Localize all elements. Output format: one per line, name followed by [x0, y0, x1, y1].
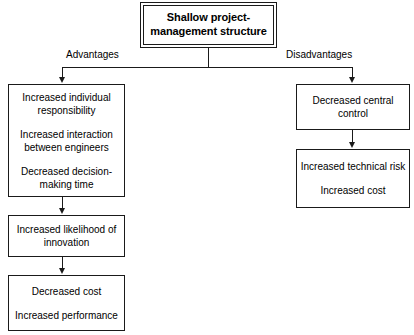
title-line-1: Shallow project- [167, 11, 250, 23]
left-arrowhead-1-to-2 [59, 208, 65, 214]
title-line-2: management structure [150, 25, 267, 37]
node-advantages-group-2: Increased likelihood of innovation [8, 215, 125, 257]
node-text: Increased technical risk [297, 160, 409, 173]
diagram-canvas: Shallow project- management structure Ad… [0, 0, 414, 335]
node-text: Increased cost [297, 184, 409, 197]
node-text: Decreased decision-making time [9, 165, 124, 191]
node-advantages-group-3: Decreased cost Increased performance [8, 275, 125, 331]
node-disadvantages-group-2: Increased technical risk Increased cost [296, 149, 410, 208]
right-arrowhead-1-to-2 [349, 142, 355, 148]
right-branch-arrowhead [349, 77, 355, 83]
branch-distribution-bar [62, 67, 353, 68]
node-text: Increased likelihood of innovation [9, 223, 124, 249]
branch-label-disadvantages: Disadvantages [286, 50, 352, 60]
left-arrowhead-2-to-3 [59, 268, 65, 274]
left-branch-arrowhead [59, 77, 65, 83]
node-text: Increased interaction between engineers [9, 128, 124, 154]
node-disadvantages-group-1: Decreased central control [296, 84, 410, 130]
node-text: Decreased cost [9, 285, 124, 298]
title-box: Shallow project- management structure [140, 2, 277, 48]
node-advantages-group-1: Increased individual responsibility Incr… [8, 84, 125, 197]
branch-label-advantages: Advantages [66, 50, 119, 60]
node-text: Increased individual responsibility [9, 91, 124, 117]
node-text: Increased performance [9, 309, 124, 322]
title-text: Shallow project- management structure [143, 5, 274, 45]
node-text: Decreased central control [297, 94, 409, 120]
title-stem-connector [208, 48, 209, 68]
